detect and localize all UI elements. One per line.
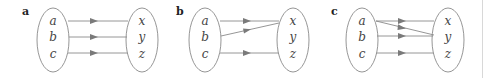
function-mapping-diagram: a a b c x y z b a b c x y z c [0, 0, 485, 78]
domain-element: b [49, 30, 57, 44]
domain-element: c [50, 47, 57, 61]
panel-c: c a b c x y z [331, 5, 464, 72]
arrowhead-icon [90, 18, 98, 24]
arrowhead-icon [243, 18, 251, 24]
codomain-element: y [138, 30, 146, 44]
codomain-element: z [289, 47, 297, 61]
domain-element: a [201, 14, 208, 28]
panel-b: b a b c x y z [176, 5, 309, 72]
panel-a: a a b c x y z [22, 5, 158, 72]
codomain-element: x [290, 14, 297, 28]
codomain-element: x [445, 14, 452, 28]
codomain-element: z [444, 47, 452, 61]
arrowhead-icon [243, 50, 251, 56]
domain-element: a [358, 14, 365, 28]
domain-element: a [49, 14, 56, 28]
panel-label-b: b [176, 5, 184, 18]
arrowhead-icon [398, 50, 406, 56]
domain-element: b [201, 30, 209, 44]
arrowhead-icon [398, 24, 407, 30]
domain-element: c [359, 47, 366, 61]
panel-label-c: c [331, 5, 338, 18]
codomain-element: x [139, 14, 146, 28]
codomain-element: y [444, 30, 452, 44]
arrowhead-icon [398, 33, 406, 39]
codomain-element: y [289, 30, 297, 44]
arrowhead-icon [398, 18, 406, 24]
codomain-element: z [138, 47, 146, 61]
panel-label-a: a [22, 5, 29, 18]
arrowhead-icon [90, 34, 98, 40]
domain-element: c [202, 47, 209, 61]
domain-element: b [358, 30, 366, 44]
arrowhead-icon [243, 29, 251, 34]
arrowhead-icon [90, 50, 98, 56]
